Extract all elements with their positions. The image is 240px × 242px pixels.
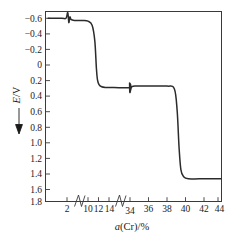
x-tick-label: 44	[215, 204, 225, 214]
x-tick-label: 10	[83, 204, 93, 214]
y-tick-label: 0.2	[30, 76, 42, 86]
x-tick-label: 36	[144, 204, 154, 214]
y-axis-title-group: E/V	[11, 86, 22, 134]
y-tick-label: 1.0	[30, 138, 42, 148]
y-tick-label: 1.2	[30, 154, 42, 164]
chart-figure: −0.6 −0.4 −0.2 0 0.2 0.4 0.6 0.8 1.0 1.2…	[0, 0, 240, 242]
x-axis-unit: %	[140, 221, 149, 232]
data-series-curve	[48, 13, 221, 179]
x-tick-label: 38	[162, 204, 172, 214]
y-tick-label: 0	[37, 60, 42, 70]
potential-composition-chart: −0.6 −0.4 −0.2 0 0.2 0.4 0.6 0.8 1.0 1.2…	[0, 0, 240, 242]
y-tick-label: 1.6	[30, 185, 42, 195]
x-axis-title: a(Cr)/%	[115, 221, 150, 233]
x-axis-ticks	[67, 197, 218, 201]
y-axis-unit: V	[11, 86, 22, 94]
x-tick-label: 40	[181, 204, 191, 214]
y-tick-label: 0.4	[30, 91, 42, 101]
y-tick-label: −0.4	[25, 29, 42, 39]
x-tick-label: 42	[199, 204, 209, 214]
x-tick-label: 34	[125, 206, 135, 216]
y-tick-label: −0.2	[25, 45, 42, 55]
x-tick-label: 14	[105, 204, 115, 214]
y-tick-label: 0.8	[30, 123, 42, 133]
y-tick-label: 1.4	[30, 169, 42, 179]
y-axis-title: E/V	[11, 86, 22, 104]
x-tick-label: 12	[94, 204, 104, 214]
y-tick-label: −0.6	[25, 14, 42, 24]
axis-break-2-icon	[116, 195, 127, 207]
y-tick-label: 1.8	[30, 197, 42, 207]
plot-frame	[46, 12, 222, 202]
y-axis-ticks	[46, 18, 51, 201]
y-axis-tick-labels: −0.6 −0.4 −0.2 0 0.2 0.4 0.6 0.8 1.0 1.2…	[25, 14, 42, 207]
y-axis-direction-arrow-icon	[16, 108, 23, 134]
x-axis-species: (Cr)	[120, 221, 138, 233]
x-axis-tick-labels: 2 10 12 14 34 36 38 40 42 44	[65, 204, 225, 217]
x-tick-label: 2	[65, 204, 70, 214]
y-tick-label: 0.6	[30, 107, 42, 117]
